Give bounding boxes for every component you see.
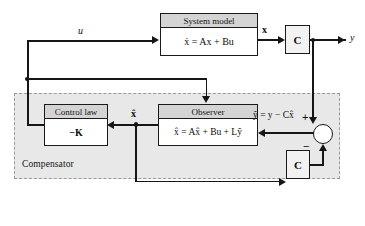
observer-block[interactable]: Observer x̂ = Ax̂ + Bu + Lỹ <box>158 104 258 146</box>
c-matrix-block-bottom[interactable]: C <box>286 150 310 179</box>
wire-xhat-down <box>135 124 137 182</box>
control-law-block[interactable]: Control law −K <box>44 104 108 146</box>
arrow-y-output <box>338 36 345 44</box>
signal-label-xhat: x̂ <box>131 108 136 119</box>
system-model-equation: ẋ = Ax + Bu <box>161 28 257 56</box>
control-law-equation: −K <box>45 119 107 146</box>
wire-xhat-to-c-bottom <box>135 181 281 183</box>
wire-u-down-into-compensator <box>27 79 29 125</box>
arrow-ytilde-into-observer <box>258 129 265 137</box>
summing-junction-plus-sign: + <box>302 111 308 123</box>
summing-junction-minus-sign: − <box>303 140 309 152</box>
signal-label-u: u <box>78 25 83 36</box>
c-matrix-block-top[interactable]: C <box>285 25 310 54</box>
wire-control-law-output <box>27 124 45 126</box>
observer-equation: x̂ = Ax̂ + Bu + Lỹ <box>159 119 257 146</box>
arrow-x-into-c-top <box>278 36 285 44</box>
arrow-y-into-sum <box>309 117 317 124</box>
wire-u-to-observer-vertical <box>206 78 208 98</box>
wire-u-to-system-model <box>27 40 153 42</box>
wire-y-feedback-down <box>312 40 314 118</box>
system-model-block[interactable]: System model ẋ = Ax + Bu <box>160 13 258 56</box>
signal-label-y-tilde: ỹ = y − Cx̂ <box>253 110 294 120</box>
arrow-xhat-into-control-law <box>107 121 114 129</box>
signal-label-x: x <box>262 24 267 35</box>
arrow-u-into-system-model <box>152 36 159 44</box>
block-diagram-canvas: Compensator u x y ỹ = y − Cx̂ x̂ System … <box>0 0 365 226</box>
summing-junction[interactable] <box>313 124 333 144</box>
signal-label-y: y <box>350 32 354 43</box>
arrow-u-into-observer <box>202 96 210 103</box>
wire-c-bottom-up-to-sum <box>322 150 324 165</box>
system-model-header: System model <box>161 14 257 28</box>
wire-ytilde-to-observer <box>264 132 314 134</box>
wire-x-to-c-top <box>258 39 280 41</box>
control-law-header: Control law <box>45 105 107 119</box>
junction-dot-y <box>311 38 315 42</box>
wire-u-to-observer-horizontal <box>27 78 207 80</box>
junction-dot-xhat <box>134 122 138 126</box>
arrow-cxhat-into-sum <box>319 144 327 151</box>
observer-header: Observer <box>159 105 257 119</box>
arrow-xhat-into-c-bottom <box>279 178 286 186</box>
wire-u-riser <box>27 40 29 79</box>
compensator-label: Compensator <box>22 159 74 169</box>
